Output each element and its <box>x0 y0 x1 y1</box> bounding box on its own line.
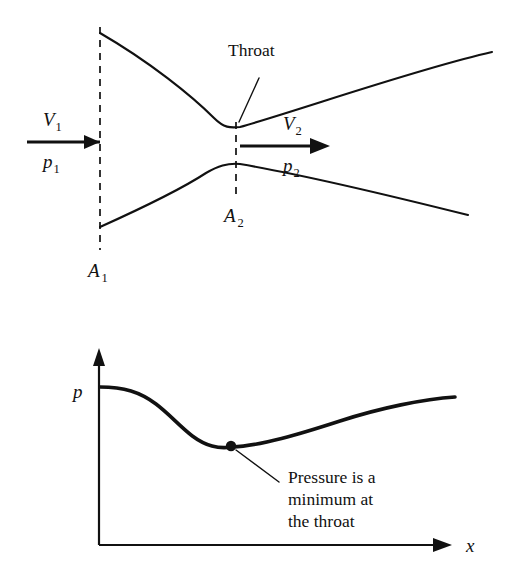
pressure-distribution-curve <box>100 387 455 448</box>
throat-area-label: A2 <box>222 205 244 230</box>
venturi-pressure-figure: Throat V1 p1 V2 p2 A1 A2 <box>0 0 509 575</box>
pressure-minimum-annotation-line-3: the throat <box>288 511 355 531</box>
inlet-area-label: A1 <box>86 260 108 285</box>
outlet-pressure-label: p2 <box>281 155 300 180</box>
outlet-flow-arrow-head <box>310 138 330 154</box>
inlet-pressure-subscript: 1 <box>54 162 60 176</box>
pressure-minimum-marker <box>226 441 236 451</box>
throat-label: Throat <box>228 40 275 60</box>
inlet-velocity-subscript: 1 <box>56 120 62 134</box>
outlet-pressure-symbol: p <box>281 155 293 176</box>
pressure-minimum-annotation-line-2: minimum at <box>288 489 373 509</box>
y-axis-label: p <box>71 381 83 402</box>
outlet-velocity-label: V2 <box>283 113 302 138</box>
pressure-minimum-annotation-line-1: Pressure is a <box>288 467 376 487</box>
throat-leader-line <box>239 78 259 122</box>
annotation-leader-line <box>236 450 279 482</box>
x-axis-arrow-head <box>433 538 452 552</box>
y-axis-arrow-head <box>93 348 105 366</box>
inlet-area-subscript: 1 <box>102 271 108 285</box>
outlet-velocity-subscript: 2 <box>296 124 302 138</box>
pressure-plot-group: p x Pressure is a minimum at the throat <box>71 348 475 556</box>
inlet-flow-arrow-head <box>84 135 100 149</box>
throat-area-symbol: A <box>222 205 236 226</box>
throat-area-subscript: 2 <box>238 216 244 230</box>
inlet-pressure-symbol: p <box>41 151 53 172</box>
nozzle-diagram-group: Throat V1 p1 V2 p2 A1 A2 <box>27 27 492 285</box>
inlet-area-symbol: A <box>86 260 100 281</box>
outlet-pressure-subscript: 2 <box>294 166 300 180</box>
upper-wall-contour <box>100 33 492 127</box>
inlet-pressure-label: p1 <box>41 151 60 176</box>
figure-canvas: Throat V1 p1 V2 p2 A1 A2 <box>0 0 509 575</box>
inlet-velocity-label: V1 <box>43 109 62 134</box>
x-axis-label: x <box>465 535 475 556</box>
